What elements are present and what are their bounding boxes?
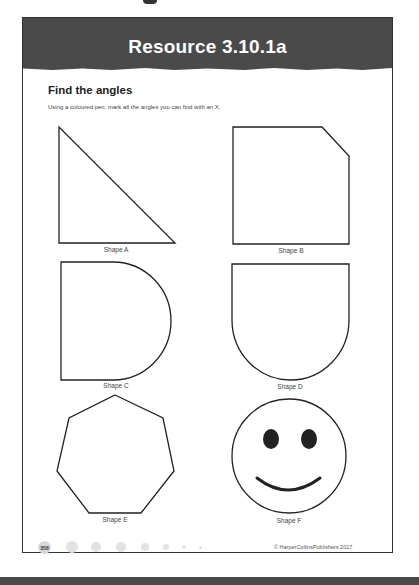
shape-a-triangle — [59, 127, 175, 243]
decorative-dot — [141, 543, 149, 551]
bottom-bar — [0, 577, 419, 585]
shape-f-face-circle — [232, 399, 346, 513]
shape-c-label: Shape C — [103, 382, 128, 389]
shape-b-pentagon — [233, 127, 349, 244]
decorative-dot — [66, 541, 78, 553]
shape-d-u-shape — [232, 264, 349, 380]
decorative-dot — [199, 546, 202, 549]
decorative-dot — [91, 542, 101, 552]
shape-f-left-eye — [263, 429, 279, 449]
shape-e-heptagon — [57, 395, 174, 513]
shape-b-label: Shape B — [279, 247, 304, 254]
copyright-text: © HarperCollinsPublishers 2017 — [274, 544, 352, 550]
decorative-dot — [163, 544, 169, 550]
shape-a-label: Shape A — [104, 246, 129, 253]
shape-f-label: Shape F — [277, 517, 302, 524]
decorative-dot — [182, 545, 186, 549]
shape-f-smile — [257, 478, 320, 490]
shape-c-d-shape — [61, 262, 171, 380]
shape-d-label: Shape D — [277, 383, 302, 390]
shape-e-label: Shape E — [103, 516, 128, 523]
shape-f-right-eye — [301, 429, 317, 449]
decorative-dot — [116, 542, 126, 552]
page-number-badge: 358 — [38, 541, 51, 554]
shapes-canvas — [0, 0, 419, 585]
